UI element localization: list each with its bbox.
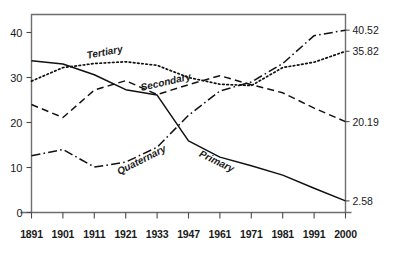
y-tick-label: 30 bbox=[10, 72, 22, 84]
x-tick-label: 1961 bbox=[209, 228, 232, 240]
x-tick-label: 1901 bbox=[52, 228, 75, 240]
y-tick-label: 0 bbox=[16, 207, 22, 219]
x-tick-label: 1911 bbox=[83, 228, 105, 240]
y-tick-label: 20 bbox=[10, 117, 22, 129]
series-lines bbox=[32, 30, 346, 201]
line-chart: 010203040 189119011911192119331947196119… bbox=[0, 0, 403, 279]
series-line-quaternary bbox=[32, 30, 346, 167]
end-label-tertiary: 35.82 bbox=[353, 45, 379, 57]
x-tick-label: 1921 bbox=[114, 228, 137, 240]
x-tick-label: 1947 bbox=[177, 228, 200, 240]
series-line-secondary bbox=[32, 76, 346, 122]
y-axis-ticks bbox=[27, 33, 32, 213]
x-tick-label: 2000 bbox=[334, 228, 357, 240]
y-tick-label: 40 bbox=[10, 27, 22, 39]
x-tick-label: 1991 bbox=[303, 228, 326, 240]
right-axis-end-labels: 40.5235.8220.192.58 bbox=[346, 24, 379, 207]
end-label-quaternary: 40.52 bbox=[353, 24, 379, 36]
x-axis-labels: 1891190119111921193319471961197119811991… bbox=[20, 228, 357, 240]
x-tick-label: 1933 bbox=[146, 228, 169, 240]
x-tick-label: 1971 bbox=[240, 228, 263, 240]
y-axis-labels: 010203040 bbox=[10, 27, 22, 219]
series-label-tertiary: Tertiary bbox=[86, 43, 124, 61]
y-tick-label: 10 bbox=[10, 162, 22, 174]
series-label-quaternary: Quaternary bbox=[115, 143, 168, 177]
chart-canvas: 010203040 189119011911192119331947196119… bbox=[0, 0, 403, 279]
end-label-primary: 2.58 bbox=[353, 195, 374, 207]
x-tick-label: 1891 bbox=[20, 228, 43, 240]
series-label-secondary: Secondary bbox=[140, 71, 193, 93]
x-axis-ticks bbox=[32, 213, 346, 219]
series-label-primary: Primary bbox=[198, 148, 237, 174]
end-label-secondary: 20.19 bbox=[353, 116, 379, 128]
x-tick-label: 1981 bbox=[271, 228, 294, 240]
